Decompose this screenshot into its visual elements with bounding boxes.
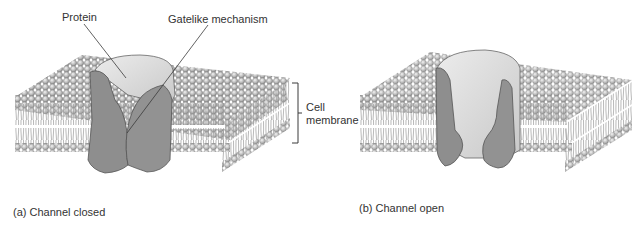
caption-channel-open: (b) Channel open <box>359 202 444 214</box>
cell-membrane-bracket <box>292 83 302 143</box>
channel-protein-closed <box>88 55 175 173</box>
gate-label: Gatelike mechanism <box>168 13 268 25</box>
protein-label: Protein <box>62 11 97 23</box>
cell-membrane-label-line2: membrane <box>306 114 359 126</box>
cell-membrane-label-line1: Cell <box>306 101 325 113</box>
caption-channel-closed: (a) Channel closed <box>13 206 105 218</box>
channel-protein-open <box>436 50 520 168</box>
